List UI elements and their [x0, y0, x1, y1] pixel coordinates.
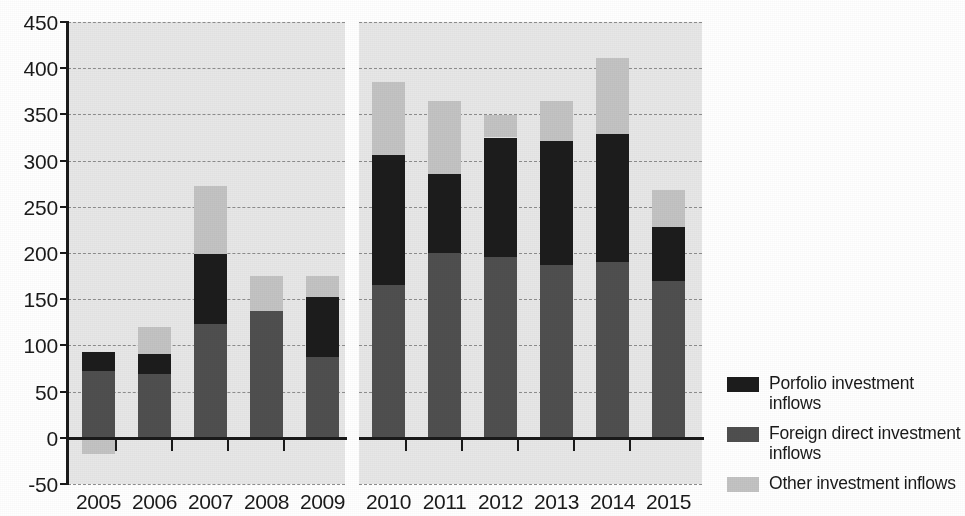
y-axis-tick-250 [60, 206, 69, 208]
legend-swatch-fdi [727, 427, 759, 442]
y-axis-tick-300 [60, 160, 69, 162]
legend-item-0[interactable]: Porfolio investment inflows [727, 374, 962, 413]
legend-item-2[interactable]: Other investment inflows [727, 474, 962, 494]
y-axis-tick-50 [60, 391, 69, 393]
chart-legend: Porfolio investment inflowsForeign direc… [727, 374, 962, 505]
x-axis-tick-p0-3 [283, 440, 285, 451]
x-axis-tick-p1-1 [461, 440, 463, 451]
x-tick-label-2012: 2012 [472, 491, 529, 512]
zero-baseline-right [359, 437, 704, 440]
x-axis-tick-p0-0 [115, 440, 117, 451]
x-axis-tick-p0-1 [171, 440, 173, 451]
x-axis-tick-p1-0 [405, 440, 407, 451]
y-axis-tick-200 [60, 252, 69, 254]
legend-swatch-other [727, 477, 759, 492]
x-axis-tick-p0-2 [227, 440, 229, 451]
legend-label-0: Porfolio investment inflows [769, 374, 962, 413]
x-tick-label-2005: 2005 [70, 491, 127, 512]
zero-baseline-left [66, 437, 347, 440]
legend-label-1: Foreign direct investment inflows [769, 424, 962, 463]
legend-item-1[interactable]: Foreign direct investment inflows [727, 424, 962, 463]
y-axis-tick-100 [60, 344, 69, 346]
y-axis-tick-350 [60, 113, 69, 115]
y-axis-tick-150 [60, 298, 69, 300]
x-tick-label-2006: 2006 [126, 491, 183, 512]
legend-swatch-portfolio [727, 377, 759, 392]
x-tick-label-2011: 2011 [416, 491, 473, 512]
x-axis-tick-p1-2 [517, 440, 519, 451]
x-tick-label-2009: 2009 [294, 491, 351, 512]
legend-label-2: Other investment inflows [769, 474, 956, 494]
y-axis-tick-400 [60, 67, 69, 69]
y-axis-tick--50 [60, 483, 69, 485]
x-tick-label-2008: 2008 [238, 491, 295, 512]
y-axis-tick-450 [60, 21, 69, 23]
x-axis-tick-p1-3 [573, 440, 575, 451]
stacked-bar-chart-figure: 450400350300250200150100500-50 200520062… [0, 0, 965, 516]
x-tick-label-2007: 2007 [182, 491, 239, 512]
x-axis-tick-p1-4 [629, 440, 631, 451]
x-tick-label-2010: 2010 [360, 491, 417, 512]
x-tick-label-2013: 2013 [528, 491, 585, 512]
x-tick-label-2014: 2014 [584, 491, 641, 512]
x-tick-label-2015: 2015 [640, 491, 697, 512]
